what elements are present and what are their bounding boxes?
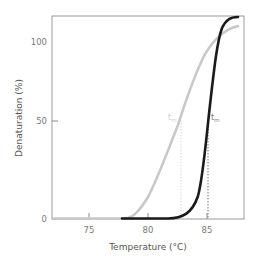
x-tick-label-75: 75: [84, 225, 95, 235]
x-axis-label: Temperature (°C): [108, 242, 187, 252]
gray-tm-label: tm: [168, 113, 177, 123]
y-tick-label-100: 100: [31, 37, 47, 47]
y-axis-label: Denaturation (%): [14, 79, 24, 157]
x-tick-label-80: 80: [143, 225, 154, 235]
y-tick-label-50: 50: [36, 116, 47, 126]
melt-curve-chart: tm tm 0 50 100 75 80 85 Temperature (°C)…: [0, 0, 257, 266]
black-tm-label: tm: [211, 113, 220, 123]
y-tick-label-0: 0: [42, 214, 47, 224]
gray-melt-curve: [52, 26, 238, 219]
x-tick-label-85: 85: [202, 225, 213, 235]
